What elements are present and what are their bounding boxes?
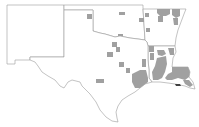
county-highlight <box>149 46 154 52</box>
county-highlight <box>126 68 130 73</box>
county-highlight <box>96 79 104 83</box>
county-highlight <box>87 14 92 19</box>
county-highlight <box>139 18 144 22</box>
county-highlight <box>150 53 154 60</box>
county-highlight <box>119 12 125 15</box>
county-highlight <box>116 47 120 52</box>
county-highlight <box>145 13 149 17</box>
county-highlight <box>107 52 113 57</box>
state-new-mexico <box>7 5 64 64</box>
county-highlight <box>112 42 117 47</box>
county-highlight <box>158 16 163 22</box>
lake-feature <box>175 84 181 86</box>
map <box>0 0 199 127</box>
county-highlight <box>118 34 123 36</box>
county-highlight <box>119 62 124 67</box>
county-highlight <box>142 59 146 67</box>
county-highlight <box>146 28 150 32</box>
